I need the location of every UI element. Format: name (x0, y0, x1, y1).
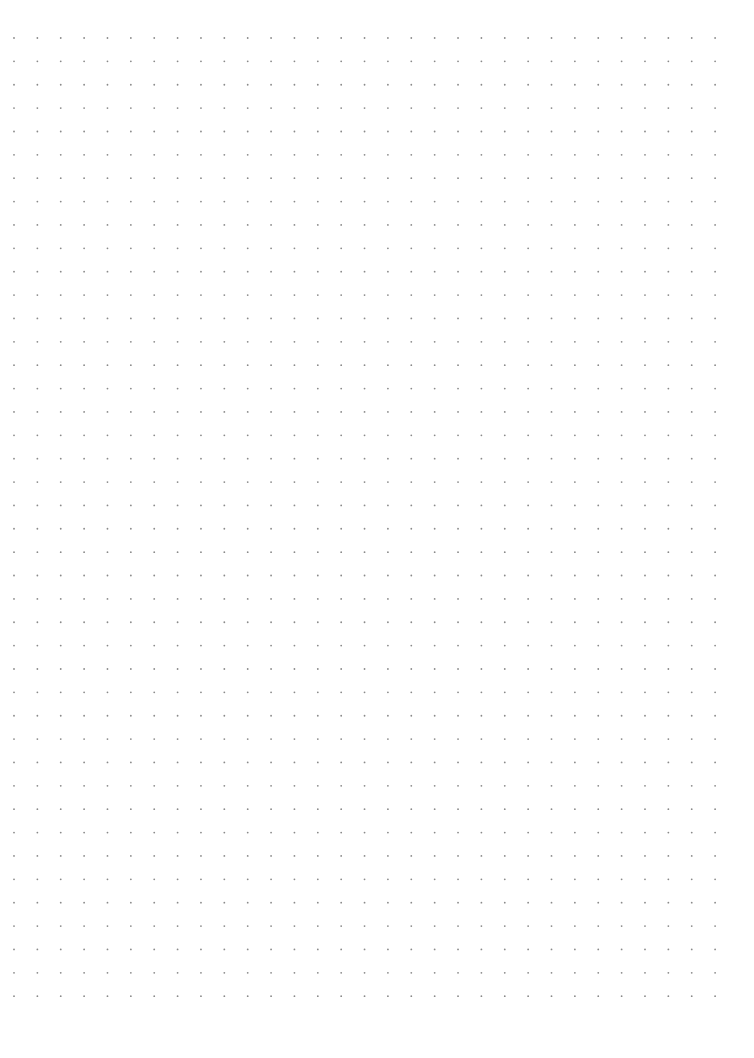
grid-dot (667, 481, 669, 483)
grid-dot (13, 949, 15, 951)
grid-dot (644, 294, 646, 296)
grid-dot (36, 37, 38, 39)
grid-dot (434, 738, 436, 740)
grid-dot (574, 621, 576, 623)
grid-dot (36, 598, 38, 600)
grid-dot (153, 925, 155, 927)
grid-dot (504, 738, 506, 740)
grid-dot (504, 808, 506, 810)
grid-dot (270, 318, 272, 320)
grid-dot (621, 458, 623, 460)
grid-dot (714, 855, 716, 857)
grid-dot (36, 738, 38, 740)
grid-dot (481, 949, 483, 951)
grid-dot (481, 551, 483, 553)
grid-dot (714, 925, 716, 927)
grid-dot (294, 224, 296, 226)
grid-dot (294, 902, 296, 904)
grid-dot (387, 364, 389, 366)
grid-dot (153, 318, 155, 320)
grid-dot (527, 37, 529, 39)
grid-dot (574, 645, 576, 647)
grid-dot (13, 832, 15, 834)
grid-dot (457, 645, 459, 647)
grid-dot (177, 271, 179, 273)
grid-dot (83, 411, 85, 413)
grid-dot (107, 131, 109, 133)
grid-dot (457, 388, 459, 390)
grid-dot (551, 458, 553, 460)
grid-dot (481, 668, 483, 670)
grid-dot (13, 668, 15, 670)
grid-dot (294, 84, 296, 86)
grid-dot (36, 902, 38, 904)
grid-dot (200, 668, 202, 670)
grid-dot (177, 598, 179, 600)
grid-dot (691, 878, 693, 880)
grid-dot (574, 107, 576, 109)
grid-dot (714, 60, 716, 62)
grid-dot (667, 388, 669, 390)
grid-dot (457, 154, 459, 156)
grid-dot (223, 84, 225, 86)
grid-dot (551, 762, 553, 764)
grid-dot (177, 411, 179, 413)
grid-dot (270, 878, 272, 880)
grid-dot (177, 341, 179, 343)
grid-dot (504, 177, 506, 179)
grid-dot (340, 434, 342, 436)
grid-dot (60, 224, 62, 226)
grid-dot (410, 271, 412, 273)
grid-dot (177, 481, 179, 483)
grid-dot (13, 715, 15, 717)
grid-dot (153, 341, 155, 343)
grid-dot (270, 154, 272, 156)
grid-dot (60, 318, 62, 320)
grid-dot (60, 949, 62, 951)
grid-dot (504, 855, 506, 857)
grid-dot (177, 434, 179, 436)
grid-dot (294, 434, 296, 436)
grid-dot (177, 364, 179, 366)
grid-dot (200, 855, 202, 857)
grid-dot (36, 668, 38, 670)
grid-dot (270, 201, 272, 203)
grid-dot (223, 37, 225, 39)
grid-dot (60, 972, 62, 974)
grid-dot (294, 271, 296, 273)
grid-dot (130, 762, 132, 764)
grid-dot (691, 575, 693, 577)
grid-dot (504, 621, 506, 623)
grid-dot (691, 434, 693, 436)
grid-dot (644, 902, 646, 904)
grid-dot (504, 481, 506, 483)
grid-dot (714, 715, 716, 717)
grid-dot (223, 832, 225, 834)
grid-dot (597, 738, 599, 740)
grid-dot (153, 271, 155, 273)
grid-dot (83, 434, 85, 436)
grid-dot (223, 505, 225, 507)
grid-dot (621, 84, 623, 86)
grid-dot (340, 84, 342, 86)
grid-dot (410, 481, 412, 483)
grid-dot (247, 855, 249, 857)
grid-dot (36, 645, 38, 647)
grid-dot (574, 575, 576, 577)
grid-dot (527, 364, 529, 366)
grid-dot (107, 60, 109, 62)
grid-dot (364, 341, 366, 343)
grid-dot (481, 271, 483, 273)
grid-dot (410, 995, 412, 997)
grid-dot (597, 481, 599, 483)
grid-dot (410, 925, 412, 927)
grid-dot (130, 107, 132, 109)
grid-dot (177, 949, 179, 951)
grid-dot (574, 177, 576, 179)
grid-dot (387, 318, 389, 320)
grid-dot (481, 902, 483, 904)
grid-dot (644, 598, 646, 600)
grid-dot (644, 247, 646, 249)
grid-dot (410, 318, 412, 320)
grid-dot (574, 925, 576, 927)
